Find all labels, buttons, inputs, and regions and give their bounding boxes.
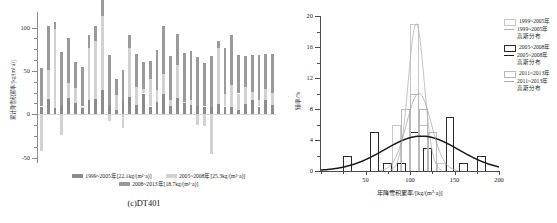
- right-x-tick-label: 150: [450, 177, 460, 183]
- bar-segment-series-0: [217, 104, 220, 114]
- legend-row-top: 1999~2005年[22.1kg/(m²·a)] 2005~2008年[25.…: [36, 172, 281, 180]
- bar-segment-series-1: [217, 48, 220, 104]
- bar-segment-series-1: [196, 114, 199, 124]
- bar-column: [88, 12, 91, 162]
- figure-caption: (c)DT401: [0, 199, 288, 208]
- gaussian-curves: [321, 16, 499, 171]
- right-legend-box-swatch: [504, 71, 516, 78]
- bar-segment-series-0: [183, 103, 186, 114]
- left-y-tick-major: 50: [32, 71, 37, 72]
- bar-column: [135, 12, 138, 162]
- bar-segment-series-1: [230, 85, 233, 108]
- bar-segment-series-2: [40, 68, 43, 106]
- right-legend-gap: [504, 92, 556, 95]
- bar-segment-series-0: [135, 105, 138, 115]
- bar-column: [40, 12, 43, 162]
- gaussian-curve-0: [391, 24, 442, 170]
- bar-segment-series-1: [264, 89, 267, 99]
- right-legend-line-swatch: [504, 55, 514, 56]
- right-legend-item-3: 2005~2008年高斯分布: [504, 52, 556, 70]
- bar-segment-series-2: [115, 79, 118, 95]
- bar-segment-series-2: [264, 54, 267, 89]
- bar-segment-series-0: [271, 105, 274, 115]
- bar-column: [149, 12, 152, 162]
- right-legend-item-2: 2005~2008年: [504, 44, 556, 52]
- left-y-tick-minor: [34, 93, 37, 94]
- bar-segment-series-1: [67, 83, 70, 98]
- bar-segment-series-2: [108, 55, 111, 104]
- bar-segment-series-1: [108, 114, 111, 121]
- bar-column: [271, 12, 274, 162]
- bar-column: [47, 12, 50, 162]
- bar-column: [94, 12, 97, 162]
- bar-segment-series-2: [47, 26, 50, 70]
- bar-column: [230, 12, 233, 162]
- left-y-tick-major: 100: [32, 28, 37, 29]
- bar-column: [251, 12, 254, 162]
- bar-segment-series-2: [54, 22, 57, 29]
- bar-column: [203, 12, 206, 162]
- right-x-tick-minor: [477, 171, 478, 174]
- bar-segment-series-1: [135, 87, 138, 105]
- right-x-tick-minor: [321, 171, 322, 174]
- bar-segment-series-1: [271, 93, 274, 105]
- bar-segment-series-1: [128, 48, 131, 97]
- bar-segment-series-2: [101, 0, 104, 16]
- bar-segment-series-2: [210, 56, 213, 106]
- bar-column: [217, 12, 220, 162]
- bar-segment-series-1: [203, 114, 206, 126]
- bar-segment-series-0: [40, 107, 43, 115]
- bar-segment-series-2: [162, 26, 165, 74]
- bar-segment-series-0: [101, 90, 104, 114]
- bar-segment-series-1: [122, 114, 125, 128]
- bar-segment-series-2: [88, 35, 91, 48]
- right-x-tick-label: 200: [494, 177, 504, 183]
- right-y-tick-minor: [317, 94, 320, 95]
- bar-segment-series-2: [122, 70, 125, 100]
- bar-segment-series-1: [88, 48, 91, 101]
- bar-segment-series-2: [142, 62, 145, 89]
- bar-segment-series-0: [176, 98, 179, 114]
- bar-segment-series-0: [108, 105, 111, 115]
- bar-segment-series-2: [60, 52, 63, 105]
- bar-column: [224, 12, 227, 162]
- right-y-tick-major: 12: [315, 78, 320, 79]
- right-legend-label: 1999~2005年: [519, 18, 550, 25]
- right-y-tick-major: 16: [315, 47, 320, 48]
- bar-segment-series-0: [190, 105, 193, 115]
- bar-column: [210, 12, 213, 162]
- bar-segment-series-0: [88, 100, 91, 114]
- bar-segment-series-0: [156, 102, 159, 114]
- right-legend-row: 2005~2008年: [504, 44, 556, 52]
- right-legend-label-line2: 高斯分布: [504, 33, 556, 40]
- bar-segment-series-1: [176, 65, 179, 98]
- right-y-tick-major: 20: [315, 16, 320, 17]
- legend-item-2008-2013: 2008~2013年[18.7kg/(m²·a)]: [119, 180, 199, 188]
- bar-segment-series-2: [237, 55, 240, 93]
- right-x-tick-label: 100: [405, 177, 415, 183]
- bar-column: [67, 12, 70, 162]
- bar-column: [156, 12, 159, 162]
- right-chart-panel: 04812162050100150200 频率/% 年降雪积累率/[kg/(m²…: [288, 0, 557, 223]
- bar-segment-series-1: [149, 79, 152, 107]
- bar-column: [122, 12, 125, 162]
- bar-segment-series-2: [176, 34, 179, 65]
- legend-swatch-1999-2005: [72, 174, 83, 178]
- right-y-tick-label: 4: [310, 137, 313, 143]
- bar-segment-series-2: [156, 50, 159, 90]
- bar-column: [264, 12, 267, 162]
- right-x-tick-major: [366, 171, 367, 175]
- bar-segment-series-2: [128, 35, 131, 48]
- bar-segment-series-0: [162, 94, 165, 114]
- left-y-tick-minor: [34, 49, 37, 50]
- right-y-tick-major: 8: [315, 109, 320, 110]
- bar-segment-series-2: [135, 54, 138, 87]
- right-legend-label: 2011~2013年: [517, 78, 548, 85]
- gaussian-curve-2: [379, 94, 458, 171]
- bar-segment-series-1: [94, 41, 97, 99]
- bar-segment-series-2: [196, 57, 199, 106]
- bar-segment-series-0: [67, 98, 70, 114]
- left-y-tick-label: 0: [27, 111, 30, 117]
- bar-segment-series-0: [251, 100, 254, 114]
- bar-segment-series-0: [196, 106, 199, 115]
